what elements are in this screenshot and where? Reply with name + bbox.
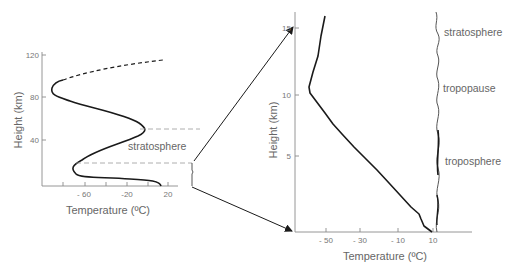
- zoom-arrow-bottom: [192, 187, 292, 231]
- right-y-tick-label: 5: [287, 152, 292, 161]
- left-temperature-curve-dashed: [63, 60, 163, 80]
- boundary-emphasis: [437, 195, 438, 225]
- left-x-tick-label: - 60: [77, 190, 91, 199]
- right-region-label-troposphere: troposphere: [445, 155, 501, 167]
- right-y-tick-label: 10: [282, 91, 291, 100]
- right-y-tick-label: 15: [282, 24, 291, 33]
- right-chart: 15 10 5 - 50 - 30 - 10 10 Height (km) Te…: [267, 12, 503, 262]
- left-x-axis-title: Temperature (ºC): [66, 204, 150, 216]
- right-x-tick-label: - 30: [353, 236, 367, 245]
- right-x-tick-label: - 50: [319, 236, 333, 245]
- left-y-axis-title: Height (km): [12, 92, 24, 149]
- left-x-tick-label: -20: [121, 190, 133, 199]
- right-x-tick-label: - 10: [391, 236, 405, 245]
- right-x-tick-label: 10: [429, 236, 438, 245]
- zoom-bracket: [192, 163, 193, 186]
- left-y-tick-label: 40: [30, 136, 39, 145]
- left-chart: 120 80 40 - 60 -20 20 Height (km) Temper…: [12, 51, 200, 216]
- right-region-label-tropopause: tropopause: [443, 82, 496, 94]
- right-y-axis-title: Height (km): [267, 102, 279, 159]
- left-region-label-stratosphere: stratosphere: [128, 140, 187, 152]
- left-temperature-curve: [52, 80, 161, 186]
- left-x-tick-label: 20: [164, 190, 173, 199]
- left-y-tick-label: 120: [26, 51, 40, 60]
- left-y-tick-label: 80: [30, 93, 39, 102]
- atmosphere-temperature-diagram: 120 80 40 - 60 -20 20 Height (km) Temper…: [0, 0, 518, 273]
- right-temperature-curve: [309, 16, 432, 232]
- right-region-label-stratosphere: stratosphere: [444, 26, 503, 38]
- right-x-axis-title: Temperature (ºC): [343, 250, 427, 262]
